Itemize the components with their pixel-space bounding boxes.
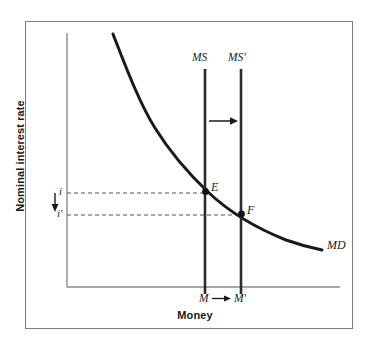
point-f-label: F	[247, 203, 254, 218]
ms-label: MS	[192, 51, 207, 63]
chart-graphics	[0, 0, 377, 356]
figure-root: Nominal interest rate Money i i' MS MS' …	[0, 0, 377, 356]
y-tick-label-i-prime: i'	[57, 207, 62, 219]
ms-prime-label: MS'	[228, 51, 246, 63]
supply-shift-arrow-icon	[209, 117, 238, 125]
x-tick-label-m-prime: M'	[234, 292, 246, 304]
x-tick-label-m: M	[199, 292, 209, 304]
point-f-marker	[238, 211, 245, 218]
x-axis-title: Money	[150, 309, 240, 321]
money-shift-arrow-icon	[212, 295, 231, 301]
y-tick-label-i: i	[59, 185, 62, 197]
md-label: MD	[327, 238, 346, 253]
point-e-label: E	[211, 180, 218, 195]
point-e-marker	[202, 188, 209, 195]
md-curve	[113, 34, 322, 250]
y-axis-title: Nominal interest rate	[14, 91, 26, 221]
